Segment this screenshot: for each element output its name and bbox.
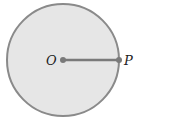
center-label: O	[46, 53, 57, 68]
circle-diagram: O P	[0, 0, 169, 119]
point-label: P	[123, 53, 133, 68]
center-point	[60, 57, 66, 63]
point-p	[116, 57, 122, 63]
